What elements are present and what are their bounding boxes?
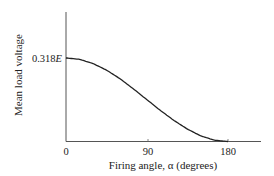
mean-voltage-curve xyxy=(66,58,228,142)
y-tick-label: 0.318E xyxy=(32,53,63,64)
y-axis-title: Mean load voltage xyxy=(12,34,24,116)
x-tick-label-0: 0 xyxy=(63,146,68,157)
x-axis-title: Firing angle, α (degrees) xyxy=(109,159,218,172)
chart-figure: 0.318E 0 90 180 Firing angle, α (degrees… xyxy=(0,0,274,176)
x-tick-label-90: 90 xyxy=(143,146,154,157)
x-tick-label-180: 180 xyxy=(220,146,236,157)
